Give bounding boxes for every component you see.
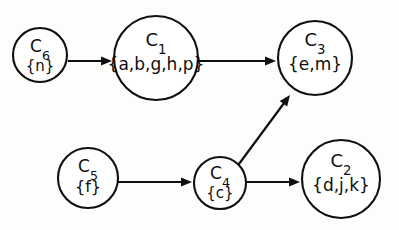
nodes-layer: C6{n}C1{a,b,g,h,p}C3{e,m}C5{f}C4{c}C2{d,… <box>13 16 380 218</box>
node-set-label: {a,b,g,h,p} <box>108 54 205 74</box>
node-set-label: {f} <box>75 177 101 196</box>
arrowhead-icon <box>265 56 276 65</box>
arrowhead-icon <box>289 177 300 186</box>
node-c2[interactable]: C2{d,j,k} <box>302 140 380 218</box>
graph-diagram: C6{n}C1{a,b,g,h,p}C3{e,m}C5{f}C4{c}C2{d,… <box>0 0 399 230</box>
edge-line <box>236 102 285 168</box>
edge-c1-c3 <box>198 56 276 65</box>
node-c6[interactable]: C6{n} <box>13 28 67 82</box>
node-c5[interactable]: C5{f} <box>58 148 118 208</box>
node-set-label: {c} <box>206 184 233 202</box>
node-set-label: {d,j,k} <box>312 175 370 195</box>
node-c3[interactable]: C3{e,m} <box>278 21 352 95</box>
edge-c6-c1 <box>68 56 112 65</box>
node-set-label: {e,m} <box>288 54 342 74</box>
node-c1[interactable]: C1{a,b,g,h,p} <box>108 16 205 100</box>
node-c4[interactable]: C4{c} <box>194 157 246 209</box>
arrowhead-icon <box>280 95 290 107</box>
node-set-label: {n} <box>26 57 55 75</box>
arrowhead-icon <box>181 177 192 186</box>
graph-canvas: C6{n}C1{a,b,g,h,p}C3{e,m}C5{f}C4{c}C2{d,… <box>0 0 399 230</box>
edge-c5-c4 <box>118 177 192 186</box>
edge-c4-c2 <box>246 177 300 186</box>
edge-c4-c3 <box>236 95 290 168</box>
